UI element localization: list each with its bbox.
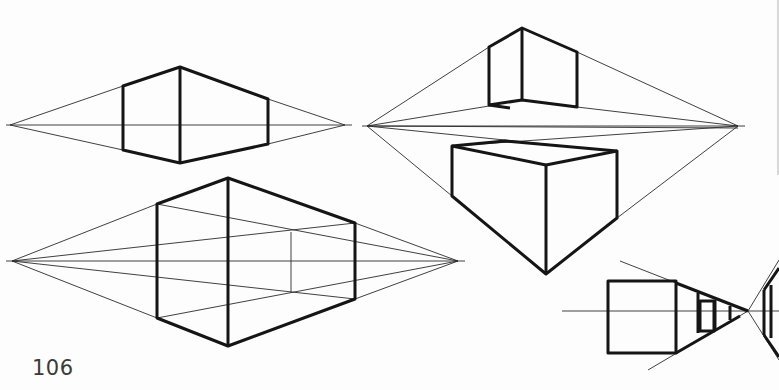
figure-top-left: [6, 67, 352, 163]
figure-bottom-right: [562, 260, 779, 370]
book-page: 106: [0, 0, 779, 390]
perspective-drawings: [0, 0, 779, 390]
figure-bottom-left: [6, 178, 465, 346]
page-number: 106: [32, 356, 74, 380]
figure-top-right: [362, 28, 745, 274]
